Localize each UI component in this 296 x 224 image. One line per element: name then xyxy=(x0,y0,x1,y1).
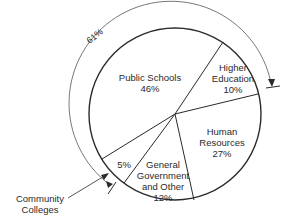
bracket-end-bar xyxy=(266,86,280,88)
slice-label-higher-education: Higher Education 10% xyxy=(208,62,258,95)
slice-label-general-government: General Government and Other 12% xyxy=(132,159,194,203)
callout-label-community-colleges: Community Colleges xyxy=(12,193,68,215)
callout-line xyxy=(68,175,106,198)
slice-label-community-colleges-value: 5% xyxy=(113,159,135,170)
arrowhead-icon xyxy=(268,79,275,87)
arrowhead-icon xyxy=(106,181,113,188)
slice-label-human-resources: Human Resources 27% xyxy=(197,126,247,159)
slice-label-public-schools: Public Schools 46% xyxy=(110,72,190,94)
